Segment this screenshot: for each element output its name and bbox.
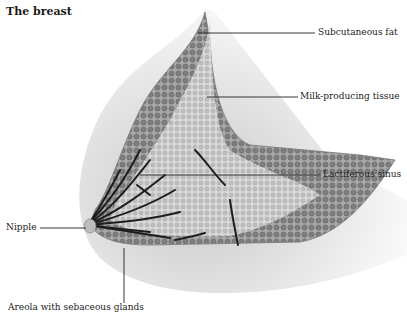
label-nipple: Nipple bbox=[6, 222, 36, 232]
label-areola: Areola with sebaceous glands bbox=[8, 302, 144, 312]
nipple-shape bbox=[84, 219, 96, 233]
label-milk-producing-tissue: Milk-producing tissue bbox=[300, 91, 400, 101]
label-lactiferous-sinus: Lactiferous sinus bbox=[323, 169, 401, 179]
label-subcutaneous-fat: Subcutaneous fat bbox=[318, 27, 398, 37]
diagram-title: The breast bbox=[6, 5, 72, 18]
breast-anatomy-illustration bbox=[0, 0, 407, 317]
